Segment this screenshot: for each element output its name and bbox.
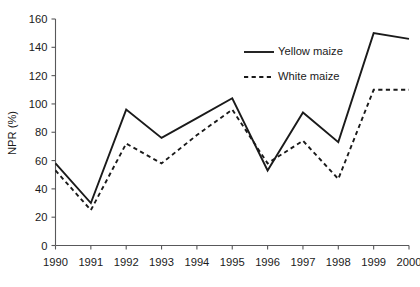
x-tick-label: 1990 bbox=[43, 256, 68, 268]
y-tick-label: 160 bbox=[29, 13, 48, 25]
y-tick-label: 100 bbox=[29, 98, 48, 110]
y-tick-label: 60 bbox=[35, 155, 47, 167]
x-tick-label: 1993 bbox=[149, 256, 174, 268]
x-tick-label: 1999 bbox=[361, 256, 386, 268]
y-tick-label: 40 bbox=[35, 183, 47, 195]
x-tick-label: 1991 bbox=[78, 256, 103, 268]
y-axis-ticks bbox=[52, 19, 56, 246]
x-tick-label: 2000 bbox=[397, 256, 420, 268]
series-line-white-maize bbox=[56, 90, 410, 210]
npr-line-chart: 020406080100120140160 NPR (%) 1990199119… bbox=[0, 0, 420, 287]
y-tick-label: 140 bbox=[29, 41, 48, 53]
legend-label: White maize bbox=[278, 70, 340, 82]
x-tick-label: 1998 bbox=[326, 256, 351, 268]
y-tick-label: 120 bbox=[29, 70, 48, 82]
x-tick-label: 1996 bbox=[255, 256, 280, 268]
x-axis-ticks bbox=[56, 246, 410, 250]
x-tick-label: 1997 bbox=[291, 256, 316, 268]
chart-legend: Yellow maizeWhite maize bbox=[244, 45, 343, 82]
x-tick-label: 1995 bbox=[220, 256, 245, 268]
y-tick-label: 80 bbox=[35, 126, 47, 138]
y-tick-label: 0 bbox=[41, 240, 47, 252]
plot-area bbox=[56, 33, 410, 210]
series-line-yellow-maize bbox=[56, 33, 410, 203]
y-axis-tick-labels: 020406080100120140160 bbox=[29, 13, 48, 252]
chart-container: 020406080100120140160 NPR (%) 1990199119… bbox=[0, 0, 420, 287]
x-axis-tick-labels: 1990199119921993199419951996199719981999… bbox=[43, 256, 420, 268]
x-tick-label: 1992 bbox=[114, 256, 139, 268]
x-axis: 1990199119921993199419951996199719981999… bbox=[43, 246, 420, 268]
y-tick-label: 20 bbox=[35, 211, 47, 223]
y-axis-title: NPR (%) bbox=[6, 111, 18, 155]
y-axis: 020406080100120140160 NPR (%) bbox=[6, 13, 56, 252]
x-tick-label: 1994 bbox=[184, 256, 209, 268]
legend-label: Yellow maize bbox=[278, 45, 343, 57]
